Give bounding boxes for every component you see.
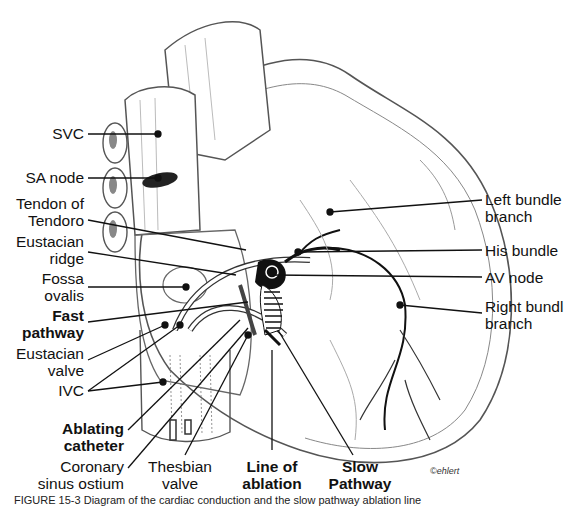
label-ablating-catheter: Ablatingcatheter bbox=[30, 420, 124, 454]
figure-caption: FIGURE 15-3 Diagram of the cardiac condu… bbox=[14, 494, 421, 506]
label-coronary-sinus-ostium: Coronarysinus ostium bbox=[20, 458, 124, 492]
label-eustacian-valve: Eustacianvalve bbox=[0, 345, 84, 379]
label-ivc: IVC bbox=[30, 382, 84, 399]
label-right-bundle-branch: Right bundlbranch bbox=[485, 298, 563, 332]
label-left-bundle-branch: Left bundlebranch bbox=[485, 191, 562, 225]
label-slow-pathway: SlowPathway bbox=[320, 458, 400, 492]
label-sa-node: SA node bbox=[10, 169, 84, 186]
label-svc: SVC bbox=[30, 125, 84, 142]
label-thesbian-valve: Thesbianvalve bbox=[140, 458, 220, 492]
label-fossa-ovalis: Fossaovalis bbox=[0, 270, 84, 304]
label-his-bundle: His bundle bbox=[485, 242, 558, 259]
label-eustacian-ridge: Eustacianridge bbox=[0, 233, 84, 267]
label-fast-pathway: Fastpathway bbox=[0, 307, 84, 341]
svc-vessel bbox=[125, 87, 200, 235]
illustrator-credit: ©ehlert bbox=[430, 466, 459, 476]
label-av-node: AV node bbox=[485, 269, 543, 286]
label-tendon-of-tendoro: Tendon ofTendoro bbox=[0, 195, 84, 229]
label-line-of-ablation: Line ofablation bbox=[232, 458, 312, 492]
